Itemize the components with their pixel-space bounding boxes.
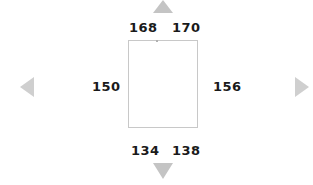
center-marker [156,40,158,42]
pan-up-arrow-icon[interactable] [153,0,173,13]
pan-down-arrow-icon[interactable] [153,163,173,179]
viewport-box[interactable] [128,40,198,128]
pan-left-arrow-icon[interactable] [20,77,34,97]
bottom-right-value: 138 [172,144,201,158]
left-value: 150 [92,80,121,94]
top-right-value: 170 [172,21,201,35]
right-value: 156 [213,80,242,94]
pan-right-arrow-icon[interactable] [295,77,309,97]
top-left-value: 168 [129,21,158,35]
bottom-left-value: 134 [131,144,160,158]
